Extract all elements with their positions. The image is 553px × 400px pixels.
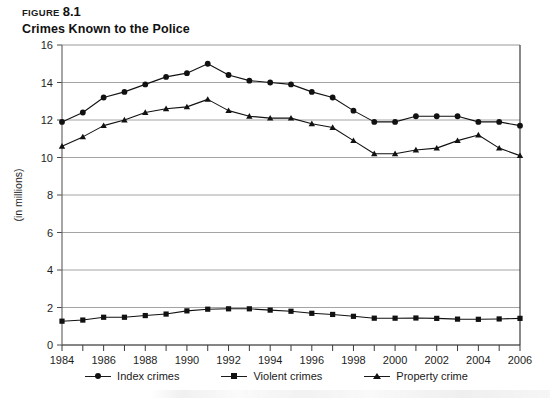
series-property-crime (59, 96, 523, 158)
data-point (288, 309, 293, 314)
data-point (247, 306, 252, 311)
ytick-label: 16 (41, 39, 53, 51)
data-point (225, 107, 231, 113)
xtick-label: 2006 (508, 354, 532, 366)
data-point (351, 108, 357, 114)
data-point (517, 123, 523, 129)
data-point (226, 306, 231, 311)
data-point (351, 314, 356, 319)
data-point (330, 95, 336, 101)
xtick-label: 1986 (91, 354, 115, 366)
source-note-smudge (150, 390, 550, 398)
data-point (205, 96, 211, 102)
data-point (309, 89, 315, 95)
xtick-label: 2002 (424, 354, 448, 366)
legend-label-violent-crimes: Violent crimes (253, 370, 322, 382)
data-point (205, 307, 210, 312)
ytick-label: 4 (47, 264, 53, 276)
data-point (226, 72, 232, 78)
data-point (80, 317, 85, 322)
series-line (62, 99, 520, 155)
data-point (101, 315, 106, 320)
legend-label-property-crime: Property crime (396, 370, 468, 382)
legend-marker-square-icon (221, 371, 247, 381)
legend-marker-circle-icon (85, 371, 111, 381)
legend-label-index-crimes: Index crimes (117, 370, 179, 382)
chart-canvas: 0246810121416198419861988199019921994199… (0, 30, 553, 370)
xtick-label: 1988 (133, 354, 157, 366)
data-point (80, 110, 86, 116)
legend-marker-triangle-icon (364, 371, 390, 381)
data-point (413, 113, 419, 119)
ytick-label: 14 (41, 77, 53, 89)
data-point (496, 145, 502, 151)
line-chart: 0246810121416198419861988199019921994199… (0, 30, 553, 370)
data-point (163, 311, 168, 316)
data-point (372, 316, 377, 321)
data-point (455, 113, 461, 119)
data-point (350, 137, 356, 143)
data-point (288, 81, 294, 87)
data-point (184, 70, 190, 76)
data-point (475, 119, 481, 125)
ytick-label: 12 (41, 114, 53, 126)
data-point (434, 316, 439, 321)
data-point (122, 89, 128, 95)
data-point (371, 119, 377, 125)
data-point (309, 311, 314, 316)
xtick-label: 1994 (258, 354, 282, 366)
xtick-label: 2004 (466, 354, 490, 366)
series-violent-crimes (59, 306, 522, 324)
data-point (184, 308, 189, 313)
legend-item-violent-crimes: Violent crimes (221, 370, 322, 382)
data-point (59, 319, 64, 324)
data-point (122, 315, 127, 320)
xtick-label: 2000 (383, 354, 407, 366)
data-point (434, 113, 440, 119)
data-point (59, 119, 65, 125)
data-point (163, 74, 169, 80)
figure-label: FIGURE (22, 7, 60, 18)
data-point (413, 315, 418, 320)
ytick-label: 8 (47, 189, 53, 201)
data-point (455, 317, 460, 322)
data-point (101, 95, 107, 101)
figure-number: 8.1 (63, 4, 81, 19)
chart-legend: Index crimes Violent crimes Property cri… (0, 366, 553, 386)
xtick-label: 1992 (216, 354, 240, 366)
data-point (59, 143, 65, 149)
data-point (246, 78, 252, 84)
data-point (392, 316, 397, 321)
xtick-label: 1984 (50, 354, 74, 366)
figure-root: FIGURE8.1 Crimes Known to the Police 024… (0, 0, 553, 400)
xtick-label: 1990 (175, 354, 199, 366)
data-point (475, 132, 481, 138)
data-point (268, 308, 273, 313)
legend-item-property-crime: Property crime (364, 370, 468, 382)
y-axis-title: (in millions) (12, 168, 24, 221)
legend-item-index-crimes: Index crimes (85, 370, 179, 382)
data-point (517, 316, 522, 321)
ytick-label: 10 (41, 152, 53, 164)
ytick-label: 6 (47, 227, 53, 239)
data-point (330, 312, 335, 317)
data-point (497, 316, 502, 321)
data-point (142, 81, 148, 87)
data-point (143, 313, 148, 318)
data-point (392, 119, 398, 125)
xtick-label: 1998 (341, 354, 365, 366)
ytick-label: 2 (47, 302, 53, 314)
data-point (205, 61, 211, 67)
data-point (476, 317, 481, 322)
xtick-label: 1996 (300, 354, 324, 366)
ytick-label: 0 (47, 339, 53, 351)
data-point (80, 134, 86, 140)
data-point (496, 119, 502, 125)
data-point (267, 80, 273, 86)
